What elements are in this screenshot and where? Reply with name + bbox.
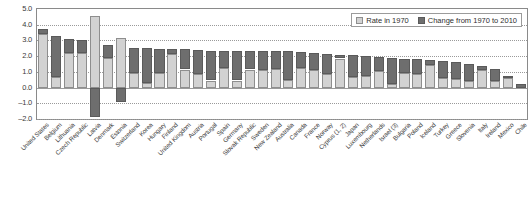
bar-group[interactable] bbox=[154, 9, 164, 119]
bar-segment-rate-1970 bbox=[374, 71, 384, 88]
bar-segment-rate-1970 bbox=[335, 59, 345, 88]
bar-group[interactable] bbox=[129, 9, 139, 119]
bar-segment-change-1970-2010 bbox=[516, 84, 526, 88]
bar-segment-change-1970-2010 bbox=[64, 39, 74, 53]
bar-segment-change-1970-2010 bbox=[206, 51, 216, 81]
bar-group[interactable] bbox=[245, 9, 255, 119]
bar-segment-change-1970-2010 bbox=[335, 55, 345, 59]
bar-segment-change-1970-2010 bbox=[361, 56, 371, 76]
bar-segment-change-1970-2010 bbox=[387, 58, 397, 85]
bar-segment-rate-1970 bbox=[103, 58, 113, 88]
legend-item-change-1970-2010: Change from 1970 to 2010 bbox=[418, 16, 517, 25]
bar-group[interactable] bbox=[90, 9, 100, 119]
bar-group[interactable] bbox=[219, 9, 229, 119]
bar-segment-rate-1970 bbox=[271, 69, 281, 88]
bar-segment-change-1970-2010 bbox=[167, 49, 177, 54]
bar-group[interactable] bbox=[283, 9, 293, 119]
gridline bbox=[37, 119, 527, 120]
bar-segment-change-1970-2010 bbox=[232, 51, 242, 81]
stacked-bar-chart: 5.04.03.02.01.00.0–1.0–2.0 Rate in 1970 … bbox=[0, 0, 530, 197]
bar-segment-change-1970-2010 bbox=[193, 50, 203, 74]
bar-segment-rate-1970 bbox=[90, 16, 100, 88]
bar-group[interactable] bbox=[309, 9, 319, 119]
chart-legend: Rate in 1970 Change from 1970 to 2010 bbox=[351, 13, 522, 27]
bar-segment-rate-1970 bbox=[219, 68, 229, 88]
bar-segment-rate-1970 bbox=[64, 53, 74, 88]
bar-segment-change-1970-2010 bbox=[180, 49, 190, 69]
y-axis-tick: 5.0 bbox=[22, 4, 32, 13]
bar-segment-rate-1970 bbox=[503, 78, 513, 87]
bar-group[interactable] bbox=[167, 9, 177, 119]
bar-group[interactable] bbox=[142, 9, 152, 119]
y-axis-tick: 0.0 bbox=[22, 82, 32, 91]
bar-segment-rate-1970 bbox=[116, 38, 126, 88]
bar-segment-change-1970-2010 bbox=[296, 52, 306, 68]
bar-segment-rate-1970 bbox=[154, 73, 164, 87]
bar-segment-rate-1970 bbox=[296, 68, 306, 88]
legend-label: Rate in 1970 bbox=[366, 16, 409, 25]
bar-segment-rate-1970 bbox=[258, 70, 268, 87]
bar-segment-change-1970-2010 bbox=[154, 49, 164, 73]
legend-item-rate-1970: Rate in 1970 bbox=[356, 16, 409, 25]
bar-segment-rate-1970 bbox=[38, 34, 48, 87]
legend-label: Change from 1970 to 2010 bbox=[428, 16, 517, 25]
bar-segment-rate-1970 bbox=[142, 83, 152, 88]
bar-segment-rate-1970 bbox=[399, 73, 409, 88]
bar-group[interactable] bbox=[64, 9, 74, 119]
bar-segment-change-1970-2010 bbox=[451, 62, 461, 79]
bar-group[interactable] bbox=[116, 9, 126, 119]
bar-segment-rate-1970 bbox=[425, 65, 435, 88]
bar-segment-change-1970-2010 bbox=[464, 64, 474, 81]
y-axis: 5.04.03.02.01.00.0–1.0–2.0 bbox=[0, 0, 36, 127]
bar-group[interactable] bbox=[180, 9, 190, 119]
bar-group[interactable] bbox=[51, 9, 61, 119]
bar-group[interactable] bbox=[77, 9, 87, 119]
bar-segment-change-1970-2010 bbox=[142, 48, 152, 83]
bar-segment-change-1970-2010 bbox=[51, 36, 61, 78]
bar-segment-rate-1970 bbox=[438, 78, 448, 87]
bar-group[interactable] bbox=[335, 9, 345, 119]
bar-segment-rate-1970 bbox=[464, 81, 474, 88]
y-axis-tick: –2.0 bbox=[18, 114, 32, 123]
bar-segment-rate-1970 bbox=[309, 70, 319, 88]
bar-segment-rate-1970 bbox=[245, 70, 255, 88]
bar-segment-rate-1970 bbox=[361, 76, 371, 88]
bar-segment-rate-1970 bbox=[477, 70, 487, 87]
y-axis-tick: 1.0 bbox=[22, 66, 32, 75]
bar-group[interactable] bbox=[103, 9, 113, 119]
bar-segment-rate-1970 bbox=[167, 54, 177, 88]
x-axis-label: Chile bbox=[513, 121, 528, 136]
y-axis-tick: 4.0 bbox=[22, 19, 32, 28]
bar-segment-change-1970-2010 bbox=[374, 57, 384, 71]
bar-segment-change-1970-2010 bbox=[129, 48, 139, 73]
bar-segment-change-1970-2010 bbox=[399, 59, 409, 73]
bar-group[interactable] bbox=[193, 9, 203, 119]
bar-segment-rate-1970 bbox=[51, 77, 61, 87]
bar-group[interactable] bbox=[258, 9, 268, 119]
bar-group[interactable] bbox=[271, 9, 281, 119]
bar-group[interactable] bbox=[232, 9, 242, 119]
bar-segment-change-1970-2010 bbox=[219, 51, 229, 68]
bar-segment-rate-1970 bbox=[412, 74, 422, 87]
bar-segment-change-1970-2010 bbox=[322, 54, 332, 74]
y-axis-tick: 3.0 bbox=[22, 35, 32, 44]
legend-swatch-icon bbox=[418, 17, 425, 24]
bar-segment-change-1970-2010 bbox=[425, 60, 435, 65]
bar-segment-rate-1970 bbox=[322, 74, 332, 87]
bar-segment-change-1970-2010 bbox=[90, 88, 100, 118]
bar-group[interactable] bbox=[296, 9, 306, 119]
bar-group[interactable] bbox=[322, 9, 332, 119]
bar-group[interactable] bbox=[206, 9, 216, 119]
bar-segment-change-1970-2010 bbox=[309, 53, 319, 70]
bar-segment-change-1970-2010 bbox=[77, 40, 87, 53]
bar-segment-change-1970-2010 bbox=[503, 76, 513, 78]
bar-segment-change-1970-2010 bbox=[103, 45, 113, 58]
bar-group[interactable] bbox=[38, 9, 48, 119]
bar-segment-change-1970-2010 bbox=[490, 69, 500, 82]
bar-segment-change-1970-2010 bbox=[271, 51, 281, 68]
bar-segment-change-1970-2010 bbox=[412, 59, 422, 74]
bar-segment-change-1970-2010 bbox=[116, 88, 126, 102]
bar-segment-rate-1970 bbox=[387, 84, 397, 87]
bar-segment-rate-1970 bbox=[206, 81, 216, 88]
bar-segment-rate-1970 bbox=[129, 73, 139, 88]
